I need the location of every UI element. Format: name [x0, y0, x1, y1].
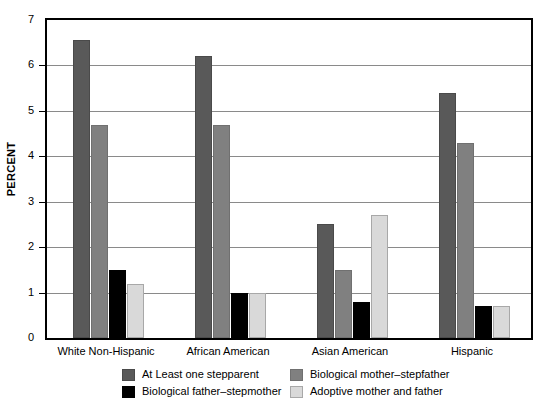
- x-tick-label: Hispanic: [411, 344, 533, 358]
- plot-area: [45, 18, 533, 340]
- bar: [127, 284, 144, 339]
- bar: [439, 93, 456, 338]
- legend-label: Biological father–stepmother: [142, 385, 281, 398]
- bar: [249, 293, 266, 338]
- bar: [91, 125, 108, 339]
- legend-swatch: [122, 369, 135, 381]
- bar: [213, 125, 230, 339]
- y-tick-label: 2: [0, 241, 34, 252]
- x-tick-label: White Non-Hispanic: [45, 344, 167, 358]
- y-axis: 01234567: [0, 0, 40, 418]
- legend-item: Biological mother–stepfather: [290, 366, 542, 383]
- legend-item: Biological father–stepmother: [122, 383, 290, 400]
- legend-label: At Least one stepparent: [142, 368, 259, 381]
- x-axis: White Non-HispanicAfrican AmericanAsian …: [45, 344, 533, 362]
- chart-legend: At Least one stepparentBiological mother…: [122, 366, 542, 400]
- x-tick-label: African American: [167, 344, 289, 358]
- bar: [73, 40, 90, 338]
- bar: [335, 270, 352, 338]
- x-tick-label: Asian American: [289, 344, 411, 358]
- bar: [493, 306, 510, 338]
- bar-group: [73, 20, 145, 338]
- bar: [371, 215, 388, 338]
- bar-group: [439, 20, 511, 338]
- bar-chart-figure: 01234567 PERCENT White Non-HispanicAfric…: [0, 0, 548, 418]
- bar-group: [317, 20, 389, 338]
- y-tick-label: 0: [0, 332, 34, 343]
- bar: [195, 56, 212, 338]
- bar: [109, 270, 126, 338]
- legend-label: Biological mother–stepfather: [310, 368, 449, 381]
- bar: [231, 293, 248, 338]
- bar: [353, 302, 370, 338]
- legend-swatch: [290, 386, 303, 398]
- legend-label: Adoptive mother and father: [310, 385, 443, 398]
- bar: [475, 306, 492, 338]
- y-tick-label: 5: [0, 105, 34, 116]
- bar-group: [195, 20, 267, 338]
- y-axis-title: PERCENT: [5, 134, 17, 204]
- legend-swatch: [290, 369, 303, 381]
- legend-item: Adoptive mother and father: [290, 383, 542, 400]
- legend-item: At Least one stepparent: [122, 366, 290, 383]
- y-tick-label: 1: [0, 287, 34, 298]
- y-tick-label: 6: [0, 59, 34, 70]
- y-tick-label: 7: [0, 14, 34, 25]
- bar: [317, 224, 334, 338]
- bar: [457, 143, 474, 338]
- legend-swatch: [122, 386, 135, 398]
